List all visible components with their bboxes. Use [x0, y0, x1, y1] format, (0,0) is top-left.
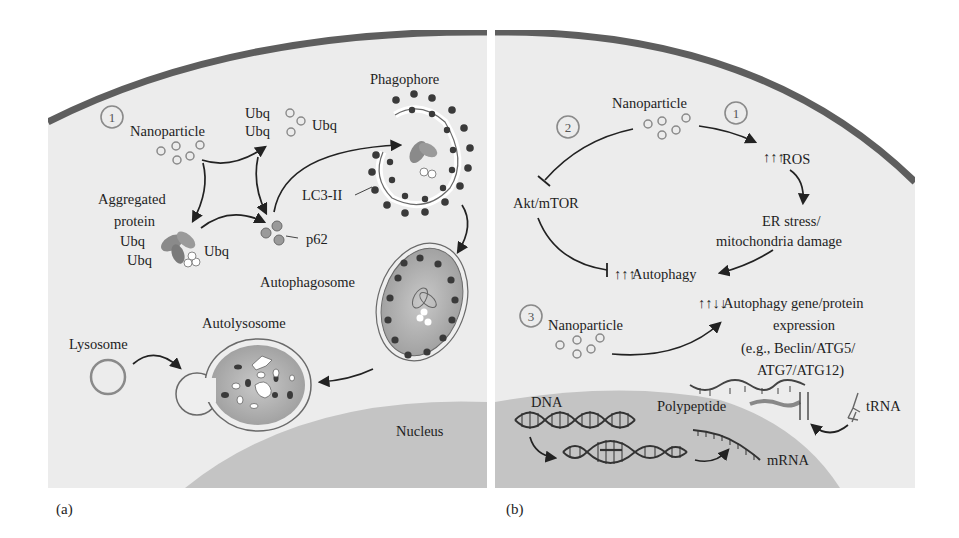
label-er-stress-1: ER stress/: [762, 213, 821, 229]
label-nucleus: Nucleus: [396, 423, 444, 439]
label-gene-3: (e.g., Beclin/ATG5/: [741, 340, 856, 357]
label-dna: DNA: [531, 394, 563, 410]
label-mrna: mRNA: [767, 452, 809, 468]
svg-text:3: 3: [528, 309, 535, 324]
label-gene-2: expression: [773, 317, 836, 333]
panel-b: Nanoparticle 1 2 ↑↑↑ ROS ER stress/ mito…: [495, 32, 915, 518]
panel-a: 1 Nanoparticle Ubq Ubq Ubq Aggregated pr…: [48, 32, 487, 518]
label-er-stress-2: mitochondria damage: [716, 233, 842, 249]
svg-text:1: 1: [109, 110, 116, 125]
svg-text:1: 1: [733, 106, 740, 121]
label-ubq-left-2: Ubq: [127, 252, 152, 268]
label-gene-1: Autophagy gene/protein: [723, 295, 864, 311]
svg-text:2: 2: [565, 120, 572, 135]
panel-label-a: (a): [56, 501, 73, 518]
label-autolysosome: Autolysosome: [202, 315, 286, 331]
label-gene-4: ATG7/ATG12): [757, 362, 844, 379]
label-ubq-top-1: Ubq: [245, 105, 270, 121]
label-ubq-top-3: Ubq: [312, 117, 337, 133]
label-p62: p62: [306, 231, 328, 247]
label-autophagosome: Autophagosome: [260, 274, 355, 290]
label-ubq-right: Ubq: [204, 243, 229, 259]
label-ubq-top-2: Ubq: [245, 123, 270, 139]
label-aggregated-protein-1: Aggregated: [98, 191, 166, 207]
label-lc3-ii: LC3-II: [302, 187, 342, 203]
label-trna: tRNA: [866, 398, 901, 414]
label-nanoparticle-a: Nanoparticle: [130, 123, 205, 139]
label-nanoparticle-b-bottom: Nanoparticle: [548, 317, 623, 333]
autophagy-figure: 1 Nanoparticle Ubq Ubq Ubq Aggregated pr…: [0, 0, 959, 538]
label-ros: ROS: [782, 151, 810, 167]
label-ubq-left-1: Ubq: [120, 233, 145, 249]
label-nanoparticle-b-top: Nanoparticle: [612, 95, 687, 111]
label-aggregated-protein-2: protein: [114, 213, 156, 229]
label-lysosome: Lysosome: [69, 336, 128, 352]
label-phagophore: Phagophore: [370, 71, 439, 87]
label-autophagy: Autophagy: [632, 266, 697, 282]
label-akt-mtor: Akt/mTOR: [513, 195, 579, 211]
label-polypeptide: Polypeptide: [657, 398, 726, 414]
panel-label-b: (b): [506, 501, 524, 518]
